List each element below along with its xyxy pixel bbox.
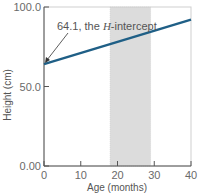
intercept-annotation: 64.1, the H-intercept [57, 20, 157, 32]
x-tick-label: 10 [75, 169, 87, 181]
x-tick-label: 0 [41, 169, 47, 181]
x-axis-title: Age (months) [87, 182, 147, 193]
y-tick-label: 100.0 [13, 1, 41, 13]
chart: 010203040 0.0050.0100.0 64.1, the H-inte… [0, 0, 201, 194]
y-axis-title: Height (cm) [2, 69, 13, 121]
y-tick-label: 50.0 [20, 81, 41, 93]
annotation-arrow [47, 33, 68, 60]
x-tick-label: 40 [185, 169, 197, 181]
x-tick-label: 30 [148, 169, 160, 181]
x-tick-label: 20 [111, 169, 123, 181]
y-tick-label: 0.00 [20, 160, 41, 172]
